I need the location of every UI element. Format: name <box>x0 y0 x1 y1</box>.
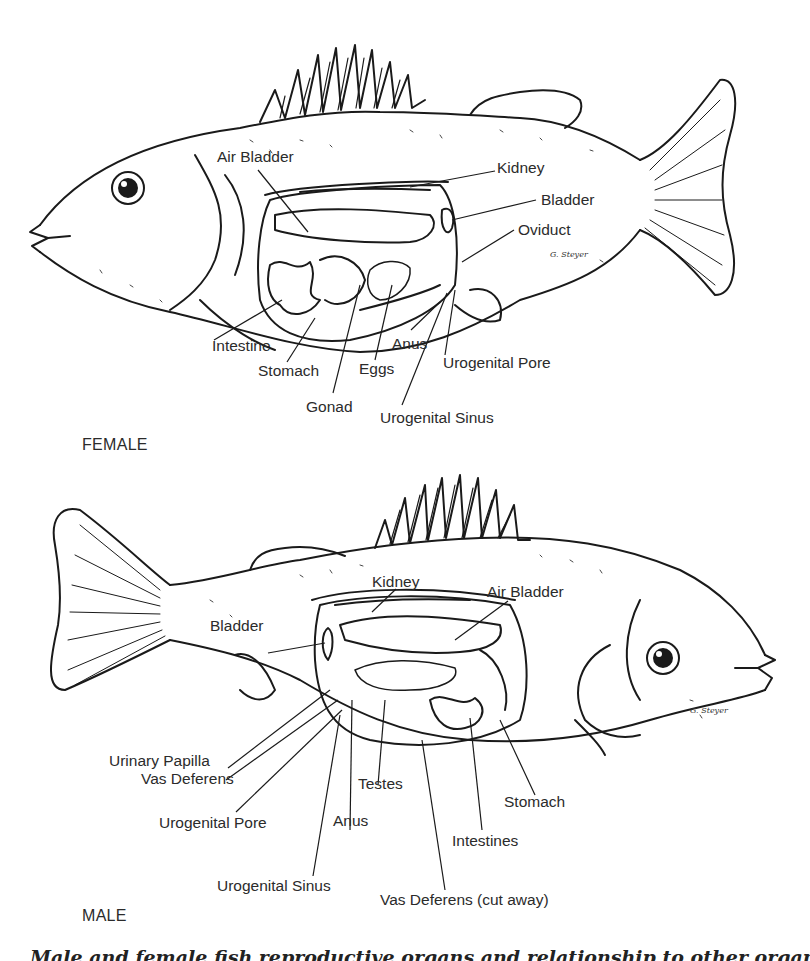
female-label-anus: Anus <box>392 335 427 353</box>
male-label-urogenital-sinus: Urogenital Sinus <box>217 877 331 895</box>
female-label-kidney: Kidney <box>497 159 544 177</box>
female-label-stomach: Stomach <box>258 362 319 380</box>
figure-caption: Male and female fish reproductive organs… <box>30 944 810 961</box>
female-label-urogenital-pore: Urogenital Pore <box>443 354 551 372</box>
female-fish-outline <box>30 45 735 352</box>
female-label-eggs: Eggs <box>359 360 394 378</box>
male-label-vas-deferens: Vas Deferens <box>141 770 234 788</box>
male-label-bladder: Bladder <box>210 617 263 635</box>
female-label-air-bladder: Air Bladder <box>217 148 294 166</box>
male-label-kidney: Kidney <box>372 573 419 591</box>
female-label-oviduct: Oviduct <box>518 221 571 239</box>
male-label-air-bladder: Air Bladder <box>487 583 564 601</box>
female-label-intestine: Intestine <box>212 337 271 355</box>
male-label-vas-deferens-cut-away: Vas Deferens (cut away) <box>380 891 549 909</box>
male-fish-outline <box>51 475 775 755</box>
male-section-title: MALE <box>82 907 127 925</box>
female-section-title: FEMALE <box>82 436 148 454</box>
female-artist-signature: G. Steyer <box>550 250 588 259</box>
male-label-testes: Testes <box>358 775 403 793</box>
female-label-gonad: Gonad <box>306 398 353 416</box>
male-artist-signature: G. Steyer <box>690 706 728 715</box>
female-label-urogenital-sinus: Urogenital Sinus <box>380 409 494 427</box>
male-label-anus: Anus <box>333 812 368 830</box>
male-label-urogenital-pore: Urogenital Pore <box>159 814 267 832</box>
female-label-bladder: Bladder <box>541 191 594 209</box>
male-label-intestines: Intestines <box>452 832 518 850</box>
male-label-urinary-papilla: Urinary Papilla <box>109 752 210 770</box>
male-label-stomach: Stomach <box>504 793 565 811</box>
